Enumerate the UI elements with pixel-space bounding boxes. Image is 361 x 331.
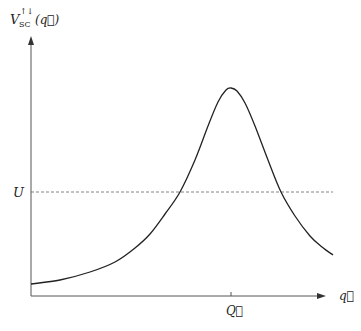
y-axis-label-sup: ↑↓ bbox=[20, 7, 33, 16]
y-axis-label-arg: (q⃗) bbox=[35, 13, 60, 27]
q-tick-label: Q⃗ bbox=[226, 304, 243, 318]
diagram: V ↑↓ SC (q⃗) U Q⃗ q⃗ bbox=[0, 0, 361, 331]
x-axis-label: q⃗ bbox=[339, 289, 354, 303]
y-axis-label-sub: SC bbox=[19, 20, 31, 29]
x-axis-arrow-icon bbox=[317, 293, 326, 299]
u-label: U bbox=[13, 185, 25, 200]
potential-curve bbox=[31, 88, 333, 284]
y-axis-arrow-icon bbox=[28, 36, 34, 45]
